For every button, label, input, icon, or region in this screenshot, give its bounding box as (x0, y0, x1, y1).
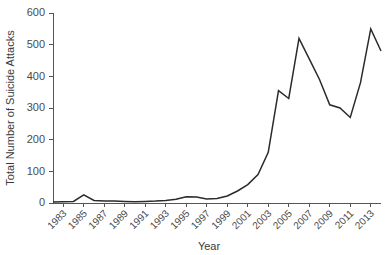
x-tick-label: 1997 (189, 207, 213, 231)
y-axis: 0100200300400500600 (27, 6, 53, 208)
y-axis-ticks (49, 13, 53, 203)
line-chart-svg: 0100200300400500600 19831985198719891991… (0, 0, 388, 255)
y-tick-label: 100 (27, 165, 45, 177)
x-axis: 1983198519871989199119931995199719992001… (45, 203, 381, 231)
data-series-line (53, 29, 381, 202)
x-tick-label: 1999 (209, 207, 233, 231)
x-tick-label: 1995 (168, 207, 192, 231)
y-tick-label: 300 (27, 101, 45, 113)
x-tick-label: 2011 (333, 207, 356, 230)
x-tick-label: 2003 (250, 207, 274, 231)
x-tick-label: 1985 (66, 207, 90, 231)
chart-figure: 0100200300400500600 19831985198719891991… (0, 0, 388, 255)
x-axis-ticks (63, 203, 371, 207)
x-tick-label: 2009 (312, 207, 336, 231)
x-tick-label: 1983 (45, 207, 69, 231)
x-axis-title: Year (198, 240, 221, 252)
x-tick-label: 1991 (127, 207, 151, 231)
x-tick-label: 1993 (148, 207, 172, 231)
y-axis-tick-labels: 0100200300400500600 (27, 6, 45, 208)
x-tick-label: 1987 (86, 207, 110, 231)
y-tick-label: 0 (39, 196, 45, 208)
y-tick-label: 400 (27, 70, 45, 82)
x-tick-label: 1989 (107, 207, 131, 231)
y-tick-label: 500 (27, 38, 45, 50)
y-tick-label: 600 (27, 6, 45, 18)
x-tick-label: 2005 (271, 207, 295, 231)
y-axis-title: Total Number of Suicide Attacks (4, 30, 16, 186)
x-tick-label: 2001 (230, 207, 254, 231)
x-tick-label: 2013 (353, 207, 377, 231)
x-tick-label: 2007 (291, 207, 315, 231)
y-tick-label: 200 (27, 133, 45, 145)
x-axis-tick-labels: 1983198519871989199119931995199719992001… (45, 207, 376, 231)
